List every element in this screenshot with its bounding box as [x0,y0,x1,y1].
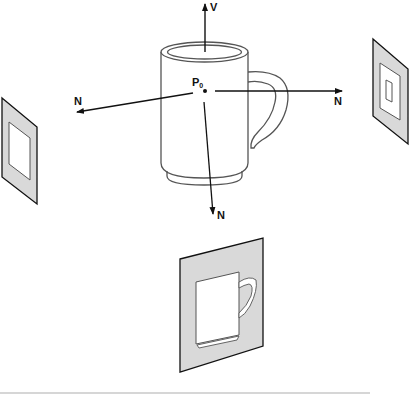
normal-label-bottom: N [217,209,225,221]
point-p0 [203,89,207,93]
normal-label-left: N [74,95,82,107]
projection-diagram: V P0 N N N [0,0,418,401]
view-vector-label: V [210,1,218,13]
projection-plane-bottom [180,238,263,372]
projection-plane-left [2,98,37,204]
normal-label-right: N [334,95,342,107]
mug-illustration [161,42,288,185]
projection-plane-right [373,39,408,144]
